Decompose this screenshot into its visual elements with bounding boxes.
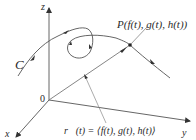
point-P xyxy=(128,43,132,47)
y-axis-label: y xyxy=(182,128,186,138)
point-label: P(f(t), g(t), h(t)) xyxy=(117,19,187,30)
y-axis xyxy=(49,100,190,121)
curve-C xyxy=(18,28,170,78)
position-vector xyxy=(49,27,147,100)
vector-arrowhead-icon xyxy=(120,47,127,53)
vector-label-leader xyxy=(84,74,106,123)
z-axis-label: z xyxy=(41,2,45,12)
x-axis xyxy=(16,100,49,137)
vector-equation-label: r⃗(t) = ⟨f(t), g(t), h(t)⟩ xyxy=(64,126,156,136)
x-axis-label: x xyxy=(5,129,9,139)
curve-label: C xyxy=(15,58,24,71)
space-curve-diagram: z C 0 x y P(f(t), g(t), h(t)) r⃗(t) = ⟨f… xyxy=(0,0,196,140)
origin-label: 0 xyxy=(40,94,45,104)
